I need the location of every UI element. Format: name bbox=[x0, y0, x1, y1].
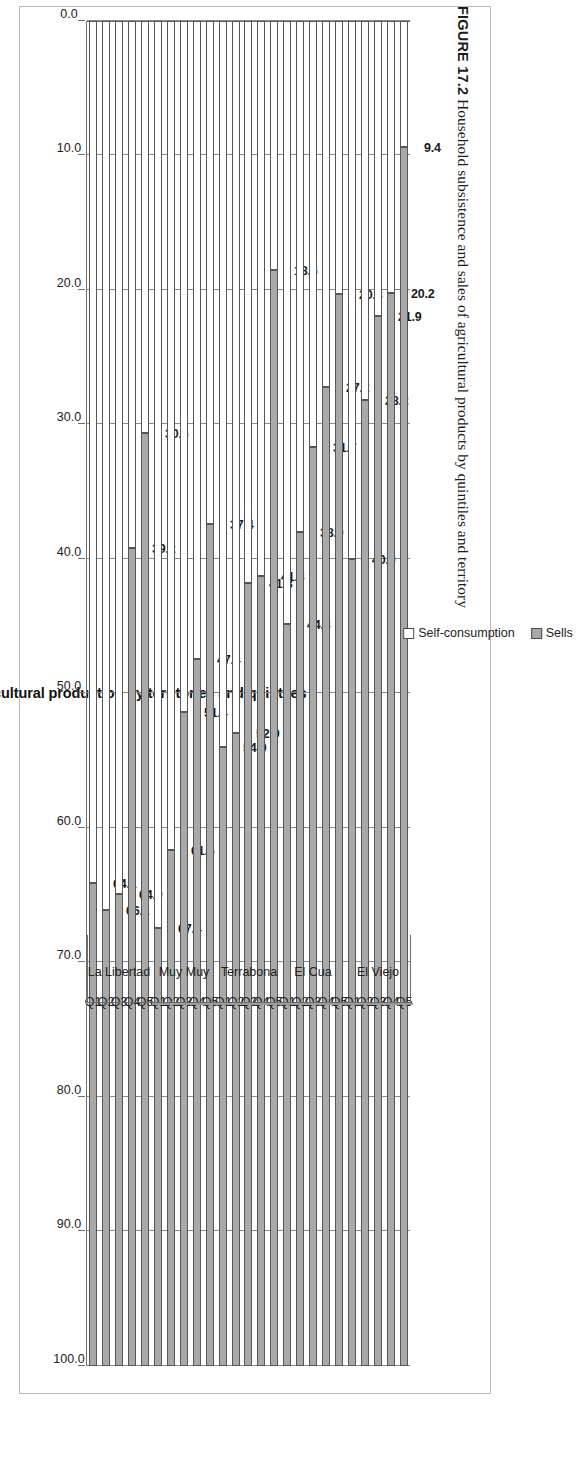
legend-swatch bbox=[531, 627, 542, 638]
figure-page: Self-consumption and sells of agricultur… bbox=[0, 0, 580, 1458]
category-axis-spine bbox=[87, 1002, 410, 1003]
value-axis-label: 80.0 bbox=[57, 1083, 81, 1097]
value-axis-label: 0.0 bbox=[60, 7, 77, 21]
figure-caption-text: Household subsistence and sales of agric… bbox=[455, 99, 472, 608]
group-separator bbox=[152, 1003, 220, 1005]
category-axis-cap-end bbox=[410, 935, 411, 1003]
group-label: La Libertad bbox=[88, 965, 151, 979]
value-axis-spine bbox=[86, 21, 87, 1366]
value-axis-label: 50.0 bbox=[57, 680, 81, 694]
bar-segment-sells bbox=[400, 147, 408, 1366]
value-axis-label: 90.0 bbox=[57, 1218, 81, 1232]
group-label: Muy Muy bbox=[159, 965, 210, 979]
value-axis-label: 40.0 bbox=[57, 545, 81, 559]
value-axis-label: 100.0 bbox=[53, 1352, 84, 1366]
legend-swatch bbox=[403, 627, 414, 638]
chart-rotation-wrapper: Self-consumption and sells of agricultur… bbox=[19, 6, 491, 1394]
value-axis-tick bbox=[78, 20, 85, 21]
value-axis-label: 20.0 bbox=[57, 276, 81, 290]
bar-group: 9.4 bbox=[87, 21, 410, 1366]
chart-canvas: Self-consumption and sells of agricultur… bbox=[19, 6, 491, 1394]
category-axis-cap-start bbox=[87, 935, 88, 1003]
legend-label: Sells bbox=[546, 626, 573, 640]
group-separator bbox=[281, 1003, 349, 1005]
figure-caption: FIGURE 17.2 Household subsistence and sa… bbox=[426, 6, 500, 1394]
group-separator bbox=[216, 1003, 284, 1005]
bar-segment-self-consumption bbox=[400, 21, 408, 147]
plot-area: 64.166.164.939.230.667.461.651.447.437.4… bbox=[87, 21, 410, 1366]
value-axis-label: 70.0 bbox=[57, 949, 81, 963]
group-label: El Viejo bbox=[357, 965, 399, 979]
value-axis-label: 60.0 bbox=[57, 814, 81, 828]
value-axis-label: 10.0 bbox=[57, 142, 81, 156]
group-label: El Cua bbox=[294, 965, 332, 979]
figure-number: FIGURE 17.2 bbox=[455, 6, 471, 95]
value-axis-label: 30.0 bbox=[57, 411, 81, 425]
legend-item: Sells bbox=[531, 626, 573, 640]
group-separator bbox=[345, 1003, 413, 1005]
group-label: Terrabona bbox=[220, 965, 276, 979]
